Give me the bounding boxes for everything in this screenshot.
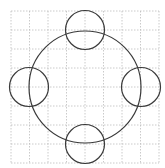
- background-grid: [11, 11, 159, 163]
- diagram-canvas: [0, 0, 165, 168]
